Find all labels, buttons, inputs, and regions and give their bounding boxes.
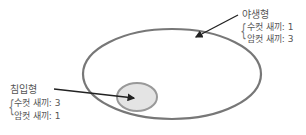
wild-type-brace: { <box>240 23 246 40</box>
invasive-type-female-count: 암컷 새끼: 1 <box>14 111 60 122</box>
wild-type-arrow <box>196 15 238 37</box>
invasive-type-label: 침입형 <box>10 84 37 95</box>
invasive-type-male-count: 수컷 새끼: 3 <box>14 98 60 109</box>
wild-type-ellipse <box>83 29 261 119</box>
wild-type-female-count: 암컷 새끼: 3 <box>247 34 293 45</box>
wild-type-label: 야생형 <box>242 9 269 20</box>
wild-type-male-count: 수컷 새끼: 1 <box>247 22 293 33</box>
